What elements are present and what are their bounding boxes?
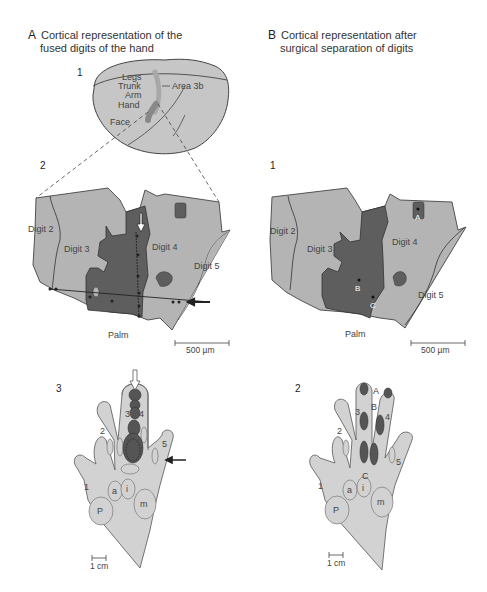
black-arrow-hand-icon: [166, 457, 186, 463]
cortical-map-fused: Digit 2 Digit 3 Digit 4 Digit 5 Palm 500…: [28, 188, 230, 355]
hand-b-d4: 4: [385, 412, 390, 422]
hand-a-d1: 1: [84, 482, 89, 492]
map-a-palm: Palm: [108, 330, 129, 340]
brain-label-face: Face: [110, 117, 130, 127]
map-b-digit3: Digit 3: [307, 244, 333, 254]
hand-a-p: P: [97, 506, 103, 516]
map-b-digit4: Digit 4: [392, 237, 418, 247]
hand-b-i: i: [362, 483, 364, 493]
hand-b-scale: 1 cm: [327, 558, 345, 568]
hand-a-d3: 3: [125, 409, 130, 419]
map-a-digit2: Digit 2: [28, 224, 54, 234]
map-b-label-b: B: [355, 284, 360, 293]
hand-a-d5: 5: [162, 439, 167, 449]
hand-fused: 1 2 3 4 5 P a i m 1 cm: [74, 370, 186, 571]
map-b-palm: Palm: [345, 329, 366, 339]
hand-b-d1: 1: [318, 481, 323, 491]
map-b-digit2: Digit 2: [270, 226, 296, 236]
map-a-scale: 500 µm: [186, 345, 215, 355]
hand-b-A: A: [373, 386, 379, 396]
hand-a-i: i: [126, 484, 128, 494]
brain-label-area3b: Area 3b: [172, 81, 204, 91]
cortical-map-separated: A B C Digit 2 Digit 3 Digit 4 Digit 5 Pa…: [270, 188, 466, 355]
map-b-label-a: A: [415, 213, 421, 222]
brain-diagram: Legs Trunk Arm Hand Face Area 3b: [36, 59, 229, 202]
hand-b-p: P: [333, 505, 339, 515]
hand-b-d3: 3: [355, 407, 360, 417]
black-arrow-icon: [188, 299, 210, 305]
hand-a-d2: 2: [100, 426, 105, 436]
hand-b-a: a: [347, 485, 352, 495]
map-b-scale: 500 µm: [421, 345, 450, 355]
hand-a-m: m: [140, 499, 148, 509]
hand-a-a: a: [112, 486, 117, 496]
hand-separated: 1 2 3 4 5 A B C P a i m 1 cm: [310, 383, 413, 570]
map-b-label-c: C: [370, 301, 376, 310]
hand-b-m: m: [377, 497, 385, 507]
hand-a-scale: 1 cm: [90, 561, 108, 571]
brain-label-arm: Arm: [125, 90, 142, 100]
map-b-digit5: Digit 5: [418, 290, 444, 300]
hand-b-d5: 5: [396, 457, 401, 467]
hand-b-d2: 2: [337, 426, 342, 436]
hand-a-d4: 4: [139, 409, 144, 419]
map-a-digit4: Digit 4: [152, 242, 178, 252]
map-a-digit3: Digit 3: [64, 244, 90, 254]
map-a-digit5: Digit 5: [194, 261, 220, 271]
hand-b-C: C: [362, 471, 369, 481]
brain-label-hand: Hand: [118, 100, 140, 110]
figure-canvas: Legs Trunk Arm Hand Face Area 3b Di: [0, 0, 487, 592]
hand-b-B: B: [371, 402, 377, 412]
